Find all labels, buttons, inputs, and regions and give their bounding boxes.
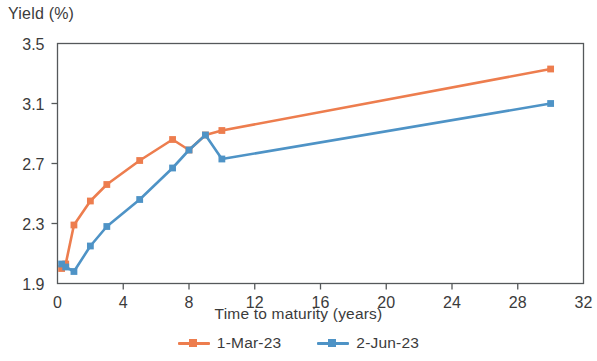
series-marker [71, 268, 78, 275]
series-marker [103, 181, 110, 188]
y-axis-tick-label: 1.9 [22, 276, 44, 293]
series-marker [62, 264, 69, 271]
series-marker [169, 165, 176, 172]
x-axis-title: Time to maturity (years) [0, 305, 597, 323]
data-series-2 [58, 100, 554, 275]
yield-curve-chart: Yield (%) 1.92.32.73.13.5048121620242832… [0, 0, 597, 361]
series-marker [169, 136, 176, 143]
series-marker [87, 243, 94, 250]
legend-marker-series-2 [328, 339, 336, 347]
legend-entry-series-1[interactable]: 1-Mar-23 [178, 334, 281, 352]
series-marker [218, 156, 225, 163]
y-axis-tick-label: 2.7 [22, 156, 44, 173]
series-line [62, 104, 551, 272]
series-marker [218, 127, 225, 134]
series-marker [87, 198, 94, 205]
series-line [62, 69, 551, 269]
legend-entry-series-2[interactable]: 2-Jun-23 [317, 334, 419, 352]
legend-label-series-1: 1-Mar-23 [217, 334, 281, 352]
series-marker [186, 147, 193, 154]
y-axis-tick-label: 2.3 [22, 216, 44, 233]
legend-swatch-series-2 [317, 337, 349, 349]
series-marker [547, 66, 554, 73]
series-marker [547, 100, 554, 107]
series-marker [136, 196, 143, 203]
legend-label-series-2: 2-Jun-23 [356, 334, 419, 352]
legend-marker-series-1 [189, 339, 197, 347]
series-marker [136, 157, 143, 164]
legend-swatch-series-1 [178, 337, 210, 349]
series-marker [103, 223, 110, 230]
y-axis-tick-label: 3.5 [22, 36, 44, 53]
chart-legend: 1-Mar-23 2-Jun-23 [0, 334, 597, 352]
y-axis-tick-label: 3.1 [22, 96, 44, 113]
data-series-group [58, 66, 554, 275]
series-marker [71, 222, 78, 229]
data-series-1 [58, 66, 554, 272]
series-marker [202, 132, 209, 139]
